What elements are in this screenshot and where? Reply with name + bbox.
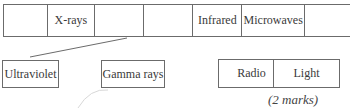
marks-label: (2 marks) xyxy=(268,92,318,108)
option-gamma-rays[interactable]: Gamma rays xyxy=(101,60,165,88)
spectrum-cell-3[interactable] xyxy=(95,5,144,36)
pencil-mark xyxy=(78,90,108,108)
spectrum-table: X-rays Infrared Microwaves xyxy=(3,4,350,37)
spectrum-cell-4[interactable] xyxy=(144,5,194,36)
spectrum-cell-7[interactable] xyxy=(305,5,350,36)
option-light[interactable]: Light xyxy=(273,59,340,88)
spectrum-cell-infrared: Infrared xyxy=(193,5,242,36)
spectrum-cell-xrays: X-rays xyxy=(48,5,95,36)
option-ultraviolet[interactable]: Ultraviolet xyxy=(2,60,59,88)
connector-line xyxy=(30,38,127,57)
spectrum-cell-1[interactable] xyxy=(4,5,48,36)
spectrum-cell-microwaves: Microwaves xyxy=(242,5,305,36)
